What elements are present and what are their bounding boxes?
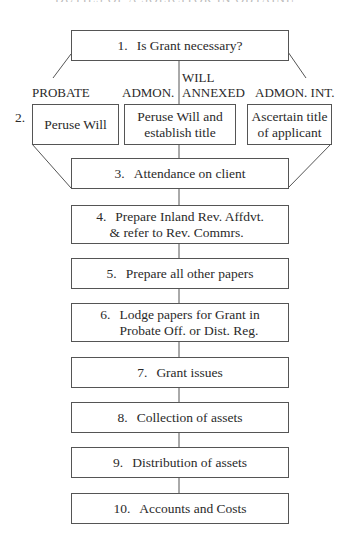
step-10-box: 10. Accounts and Costs [71, 493, 289, 524]
step-10-text: Accounts and Costs [139, 501, 246, 517]
step-6-number: 6. [100, 307, 110, 323]
step-2-admon-int-line2: of applicant [257, 125, 321, 141]
step-6-line2: Probate Off. or Dist. Reg. [119, 323, 259, 339]
step-8-number: 8. [118, 410, 128, 426]
step-4-line2: & refer to Rev. Commrs. [89, 225, 263, 241]
label-admon: ADMON. [122, 85, 174, 100]
step-2-will-annexed-line1: Peruse Will and [137, 109, 222, 125]
step-2-will-annexed-line2: establish title [144, 125, 216, 141]
step-6-text: Lodge papers for Grant in Probate Off. o… [119, 307, 259, 339]
step-8-box: 8. Collection of assets [71, 402, 289, 433]
step-1-number: 1. [118, 38, 128, 54]
step-5-text: Prepare all other papers [126, 266, 254, 282]
step-7-number: 7. [137, 365, 147, 381]
step-6-line1: Lodge papers for Grant in [119, 307, 259, 323]
step-1-box: 1. Is Grant necessary? [71, 30, 289, 61]
step-2-probate-box: Peruse Will [32, 104, 119, 145]
step-9-box: 9. Distribution of assets [71, 447, 289, 478]
step-2-admon-int-box: Ascertain title of applicant [247, 104, 332, 145]
label-will: WILL [182, 70, 245, 85]
label-will-annexed: WILL ANNEXED [182, 70, 245, 100]
step-3-box: 3. Attendance on client [71, 158, 289, 189]
step-4-box: 4. Prepare Inland Rev. Affdvt. & refer t… [71, 205, 289, 244]
step-4-number: 4. [96, 209, 106, 225]
step-2-will-annexed-box: Peruse Will and establish title [124, 104, 236, 145]
step-1-text: Is Grant necessary? [137, 38, 243, 54]
step-7-text: Grant issues [156, 365, 222, 381]
step-5-number: 5. [107, 266, 117, 282]
label-annexed: ANNEXED [182, 85, 245, 100]
step-4-line1: Prepare Inland Rev. Affdvt. [115, 209, 263, 225]
label-admon-int: ADMON. INT. [255, 85, 335, 100]
step-2-admon-int-line1: Ascertain title [251, 109, 327, 125]
step-5-box: 5. Prepare all other papers [71, 258, 289, 289]
step-3-text: Attendance on client [134, 166, 246, 182]
step-3-number: 3. [115, 166, 125, 182]
step-9-number: 9. [113, 455, 123, 471]
step-6-box: 6. Lodge papers for Grant in Probate Off… [71, 303, 289, 342]
step-7-box: 7. Grant issues [71, 357, 289, 388]
label-probate: PROBATE [32, 85, 90, 100]
step-2-probate-text: Peruse Will [44, 117, 107, 133]
step-10-number: 10. [113, 501, 130, 517]
step-8-text: Collection of assets [137, 410, 243, 426]
step-4-text: Prepare Inland Rev. Affdvt. & refer to R… [115, 209, 263, 241]
step-2-number: 2. [15, 110, 25, 125]
step-9-text: Distribution of assets [132, 455, 247, 471]
